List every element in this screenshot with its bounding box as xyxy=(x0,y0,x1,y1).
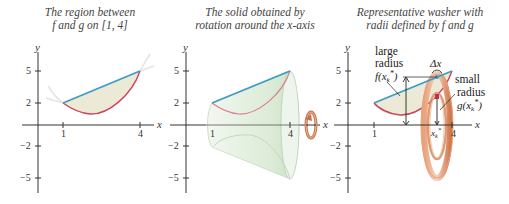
rotation-arrow-icon xyxy=(305,112,316,138)
x-axis-label-2: x xyxy=(322,118,328,130)
small-radius-label-line2: radius xyxy=(457,86,486,98)
y-tick-5-washer: 5 xyxy=(336,65,341,76)
small-radius-formula: g(xk*) xyxy=(457,98,482,113)
y-tick-2: 2 xyxy=(26,97,31,108)
y-axis-label-3: y xyxy=(344,41,350,53)
y-axis-label-2: y xyxy=(182,41,188,53)
x-axis-label: x xyxy=(156,118,162,130)
y-tick-neg5: −5 xyxy=(20,172,31,183)
x-tick-1: 1 xyxy=(61,128,66,139)
y-tick-neg2-solid: −2 xyxy=(168,140,179,151)
large-radius-leader xyxy=(387,82,400,96)
xk-star-label: xk* xyxy=(430,126,442,139)
large-radius-formula: f(xk*) xyxy=(375,69,398,84)
y-tick-2-solid: 2 xyxy=(174,97,179,108)
y-tick-neg5-washer: −5 xyxy=(330,172,341,183)
y-tick-5: 5 xyxy=(26,65,31,76)
y-tick-neg2: −2 xyxy=(20,140,31,151)
small-radius-label-line1: small xyxy=(455,73,480,85)
figure-canvas: y x 1 4 5 2 −2 −5 y x 1 4 5 2 −2 xyxy=(0,0,509,204)
delta-x-label: Δx xyxy=(429,57,441,69)
x-tick-4-washer: 4 xyxy=(451,128,456,139)
x-tick-1-solid: 1 xyxy=(210,128,215,139)
x-tick-4: 4 xyxy=(138,128,143,139)
x-tick-1-washer: 1 xyxy=(372,128,377,139)
g-point xyxy=(435,94,439,99)
y-tick-neg5-solid: −5 xyxy=(168,172,179,183)
y-tick-neg2-washer: −2 xyxy=(330,140,341,151)
y-axis-label: y xyxy=(34,41,40,53)
panel-washer: y x 1 4 5 2 −2 −5 xk* large radius f(xk*… xyxy=(330,41,486,193)
large-radius-label-line2: radius xyxy=(375,57,404,69)
panel-region: y x 1 4 5 2 −2 −5 xyxy=(20,41,162,193)
x-axis-label-3: x xyxy=(474,118,480,130)
panel-solid: y x 1 4 5 2 −2 −5 xyxy=(168,41,328,193)
y-tick-5-solid: 5 xyxy=(174,65,179,76)
x-tick-4-solid: 4 xyxy=(288,128,293,139)
y-tick-2-washer: 2 xyxy=(336,97,341,108)
